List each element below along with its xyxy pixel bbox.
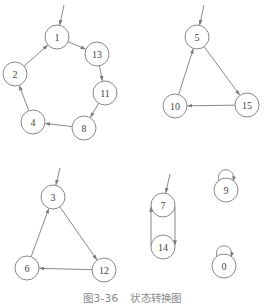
state-label: 8 <box>82 123 87 134</box>
edge-13-to-11 <box>99 66 102 81</box>
state-label: 3 <box>51 192 56 203</box>
state-node-10: 10 <box>163 94 187 118</box>
edge-4-to-2 <box>19 86 28 111</box>
figure-title: 状态转换图 <box>130 292 182 304</box>
edge-2-to-1 <box>24 45 48 66</box>
state-label: 2 <box>13 69 18 80</box>
state-label: 15 <box>242 100 252 111</box>
state-transition-diagram: 1131184251510312671490 <box>0 0 265 290</box>
edge-8-to-4 <box>45 123 72 126</box>
edge-3-to-12 <box>60 207 97 260</box>
figure-number: 图3-36 <box>83 292 118 304</box>
state-node-13: 13 <box>85 42 109 66</box>
edge-6-to-3 <box>31 209 49 257</box>
state-node-8: 8 <box>72 116 96 140</box>
state-node-7: 7 <box>151 193 175 217</box>
start-arrow-7 <box>166 174 170 193</box>
edge-1-to-13 <box>68 42 85 49</box>
state-label: 1 <box>55 32 60 43</box>
edge-12-to-6 <box>39 268 92 269</box>
state-label: 9 <box>224 185 229 196</box>
state-node-6: 6 <box>15 256 39 280</box>
state-label: 14 <box>158 242 168 253</box>
state-label: 5 <box>195 32 200 43</box>
state-node-9: 9 <box>214 178 238 202</box>
state-node-4: 4 <box>21 110 45 134</box>
nodes-layer: 1131184251510312671490 <box>3 25 259 282</box>
state-node-3: 3 <box>41 185 65 209</box>
state-node-2: 2 <box>3 62 27 86</box>
state-node-5: 5 <box>185 25 209 49</box>
state-node-14: 14 <box>151 235 175 259</box>
state-label: 7 <box>161 200 166 211</box>
start-arrow-1 <box>60 5 64 25</box>
state-node-15: 15 <box>235 93 259 117</box>
state-label: 4 <box>31 117 36 128</box>
state-label: 13 <box>92 49 102 60</box>
state-node-12: 12 <box>92 258 116 282</box>
state-node-1: 1 <box>45 25 69 49</box>
state-node-0: 0 <box>212 254 236 278</box>
edge-11-to-8 <box>90 103 98 117</box>
figure-caption: 图3-36 状态转换图 <box>0 290 265 305</box>
start-arrow-3 <box>56 168 60 185</box>
state-label: 0 <box>222 261 227 272</box>
edge-5-to-15 <box>204 47 239 95</box>
state-label: 12 <box>99 265 109 276</box>
state-node-11: 11 <box>93 81 117 105</box>
state-label: 6 <box>25 263 30 274</box>
start-arrow-5 <box>200 5 204 25</box>
edge-15-to-10 <box>187 105 235 106</box>
edge-10-to-5 <box>179 49 194 95</box>
state-label: 10 <box>170 101 180 112</box>
state-label: 11 <box>100 88 110 99</box>
